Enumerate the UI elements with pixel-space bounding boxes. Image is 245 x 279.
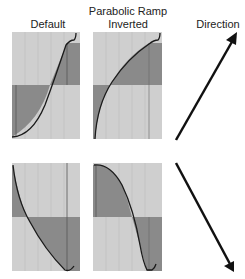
arrow-down-right-icon xyxy=(176,163,234,272)
panel-inverted-increasing xyxy=(93,32,162,139)
panel-default-decreasing xyxy=(12,163,80,271)
panel-default-increasing xyxy=(12,32,80,139)
panel-inverted-decreasing xyxy=(93,163,162,271)
diagram-canvas xyxy=(0,0,245,279)
arrow-up-right-icon xyxy=(176,32,237,140)
